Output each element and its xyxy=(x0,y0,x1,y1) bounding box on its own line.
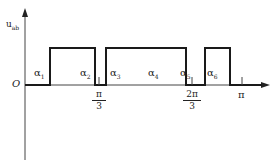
waveform-diagram xyxy=(0,0,272,162)
origin-label: O xyxy=(12,79,20,89)
pwm-waveform xyxy=(25,48,262,85)
x-axis-arrow-icon xyxy=(261,82,270,88)
alpha-4-label: α4 xyxy=(148,68,159,80)
alpha-3-label: α3 xyxy=(110,68,121,80)
alpha-2-label: α2 xyxy=(80,68,91,80)
tick-label-2pi-over-3: 2π3 xyxy=(183,90,201,111)
y-axis-arrow-icon xyxy=(22,8,28,17)
tick-label-pi-over-3: π3 xyxy=(92,90,106,111)
x-end-label-pi: π xyxy=(238,90,245,100)
alpha-1-label: α1 xyxy=(34,68,45,80)
alpha-6-label: α6 xyxy=(207,68,218,80)
alpha-5-label: α5 xyxy=(180,68,191,80)
y-axis-label: uab xyxy=(6,20,19,31)
